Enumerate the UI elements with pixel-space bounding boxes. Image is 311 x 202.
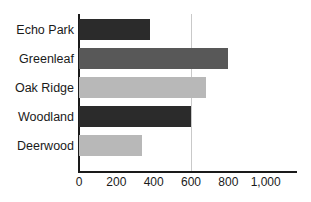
category-label: Oak Ridge (0, 82, 74, 95)
bar (79, 48, 228, 69)
bar (79, 106, 191, 127)
category-label: Greenleaf (0, 53, 74, 66)
plot-area: Echo ParkGreenleafOak RidgeWoodlandDeerw… (0, 0, 311, 202)
x-tick-label: 0 (76, 176, 83, 188)
x-tick-label: 200 (106, 176, 126, 188)
category-label: Woodland (0, 111, 74, 124)
x-tick-label: 400 (144, 176, 164, 188)
category-label: Echo Park (0, 24, 74, 37)
bar (79, 19, 150, 40)
x-tick-label: 800 (218, 176, 238, 188)
x-tick-label: 600 (181, 176, 201, 188)
x-tick-label: 1,000 (251, 176, 281, 188)
bar-chart: Echo ParkGreenleafOak RidgeWoodlandDeerw… (0, 0, 311, 202)
bar (79, 77, 206, 98)
bar (79, 135, 142, 156)
category-label: Deerwood (0, 140, 74, 153)
x-axis-line (78, 171, 297, 173)
